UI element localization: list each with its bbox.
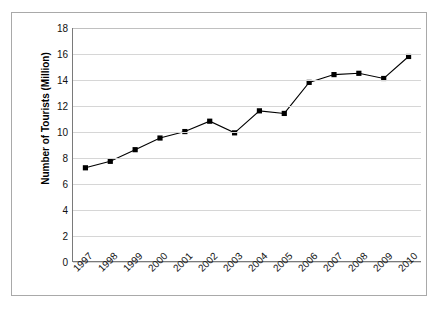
gridline [73,132,421,133]
y-tick-label: 10 [42,127,68,138]
gridline [73,106,421,107]
y-tick-label: 8 [42,153,68,164]
data-point-marker [331,72,336,77]
y-tick-label: 0 [42,257,68,268]
data-point-marker [257,108,262,113]
data-point-marker [83,165,88,170]
y-axis-tick-labels: 181614121086420 [42,13,68,297]
chart-figure: Number of Tourists (Million) 18161412108… [0,0,440,311]
data-point-marker [157,135,162,140]
gridline [73,28,421,29]
y-tick-label: 16 [42,49,68,60]
y-tick-label: 18 [42,23,68,34]
gridline [73,210,421,211]
y-tick-label: 2 [42,231,68,242]
data-point-marker [108,159,113,164]
y-tick-label: 14 [42,75,68,86]
chart-frame: Number of Tourists (Million) 18161412108… [11,12,427,296]
gridline [73,236,421,237]
gridline [73,158,421,159]
gridline [73,184,421,185]
data-point-marker [356,71,361,76]
data-point-marker [282,111,287,116]
gridline [73,54,421,55]
gridline [73,80,421,81]
series-line-tourists [73,28,421,261]
y-tick-label: 12 [42,101,68,112]
y-tick-label: 6 [42,179,68,190]
data-point-marker [207,119,212,124]
x-axis-tick-labels: 1997199819992000200120022003200420052006… [72,262,421,311]
y-tick-label: 4 [42,205,68,216]
plot-area [72,28,421,262]
data-point-marker [133,147,138,152]
